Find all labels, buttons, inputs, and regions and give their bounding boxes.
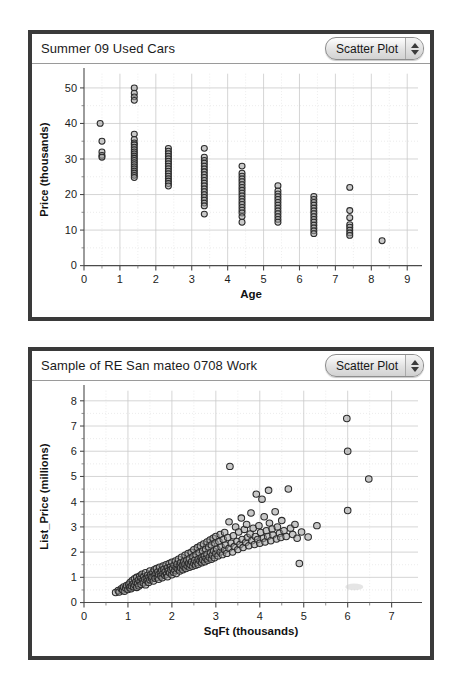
page-title: Summer 09 Used Cars <box>41 41 175 56</box>
plots-workspace: Summer 09 Used Cars Scatter Plot 0102030… <box>0 0 454 689</box>
triangle-down-icon[interactable] <box>411 50 419 55</box>
panel-body: Summer 09 Used Cars Scatter Plot 0102030… <box>32 34 430 317</box>
triangle-up-icon[interactable] <box>411 360 419 365</box>
svg-text:0: 0 <box>81 273 87 285</box>
panel-header: Sample of RE San mateo 0708 Work Scatter… <box>32 351 430 381</box>
stepper-arrows[interactable] <box>405 38 423 59</box>
svg-text:10: 10 <box>65 224 77 236</box>
svg-text:3: 3 <box>71 521 77 533</box>
svg-text:7: 7 <box>389 610 395 622</box>
svg-text:8: 8 <box>368 273 374 285</box>
panel-real-estate: Sample of RE San mateo 0708 Work Scatter… <box>28 347 434 660</box>
svg-text:7: 7 <box>71 420 77 432</box>
svg-text:Price (thousands): Price (thousands) <box>38 122 50 216</box>
svg-text:2: 2 <box>71 546 77 558</box>
plot-type-label: Scatter Plot <box>326 38 405 59</box>
plot-type-stepper-cars[interactable]: Scatter Plot <box>325 37 424 60</box>
svg-text:SqFt (thousands): SqFt (thousands) <box>204 625 299 637</box>
svg-text:Age: Age <box>240 288 262 300</box>
svg-text:8: 8 <box>71 395 77 407</box>
panel-header: Summer 09 Used Cars Scatter Plot <box>32 34 430 64</box>
svg-text:0: 0 <box>71 597 77 609</box>
svg-text:20: 20 <box>65 189 77 201</box>
svg-text:4: 4 <box>225 273 231 285</box>
svg-text:4: 4 <box>257 610 263 622</box>
svg-text:1: 1 <box>71 571 77 583</box>
svg-text:1: 1 <box>117 273 123 285</box>
scatter-canvas: 010203040500123456789AgePrice (thousands… <box>32 64 430 317</box>
svg-text:0: 0 <box>81 610 87 622</box>
svg-text:5: 5 <box>261 273 267 285</box>
triangle-down-icon[interactable] <box>411 367 419 372</box>
plot-type-stepper-realty[interactable]: Scatter Plot <box>325 354 424 377</box>
page-title: Sample of RE San mateo 0708 Work <box>41 358 257 373</box>
scatter-plot-real-estate: 01234567801234567SqFt (thousands)List_Pr… <box>32 381 430 656</box>
svg-text:0: 0 <box>71 260 77 272</box>
svg-text:5: 5 <box>71 470 77 482</box>
svg-text:1: 1 <box>125 610 131 622</box>
triangle-up-icon[interactable] <box>411 43 419 48</box>
plot-type-label: Scatter Plot <box>326 355 405 376</box>
svg-text:7: 7 <box>332 273 338 285</box>
svg-text:6: 6 <box>345 610 351 622</box>
panel-used-cars: Summer 09 Used Cars Scatter Plot 0102030… <box>28 30 434 321</box>
svg-text:6: 6 <box>71 445 77 457</box>
scatter-canvas: 01234567801234567SqFt (thousands)List_Pr… <box>32 381 430 656</box>
svg-text:40: 40 <box>65 117 77 129</box>
svg-text:2: 2 <box>153 273 159 285</box>
svg-text:50: 50 <box>65 82 77 94</box>
svg-text:4: 4 <box>71 496 77 508</box>
svg-text:9: 9 <box>404 273 410 285</box>
scatter-plot-used-cars: 010203040500123456789AgePrice (thousands… <box>32 64 430 317</box>
svg-text:3: 3 <box>189 273 195 285</box>
panel-body: Sample of RE San mateo 0708 Work Scatter… <box>32 351 430 656</box>
svg-text:6: 6 <box>296 273 302 285</box>
svg-text:3: 3 <box>213 610 219 622</box>
stepper-arrows[interactable] <box>405 355 423 376</box>
svg-text:List_Price (millions): List_Price (millions) <box>38 443 50 549</box>
svg-text:2: 2 <box>169 610 175 622</box>
svg-text:30: 30 <box>65 153 77 165</box>
svg-text:5: 5 <box>301 610 307 622</box>
